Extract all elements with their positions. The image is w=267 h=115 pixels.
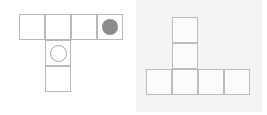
right-figure-panel: [136, 0, 262, 112]
cell-r2c2[interactable]: [198, 69, 224, 95]
cell-r2c3[interactable]: [224, 69, 250, 95]
cell-r2c1[interactable]: [172, 69, 198, 95]
outline-circle-token[interactable]: [50, 45, 67, 62]
cell-r0c2[interactable]: [71, 14, 97, 40]
left-figure-panel: [0, 0, 133, 115]
cell-r2c1[interactable]: [45, 66, 71, 92]
cell-r1c1[interactable]: [172, 43, 198, 69]
cell-r0c1[interactable]: [172, 17, 198, 43]
cell-r0c0[interactable]: [19, 14, 45, 40]
figure-canvas: [0, 0, 267, 115]
filled-disc-token[interactable]: [102, 19, 118, 35]
cell-r2c0[interactable]: [146, 69, 172, 95]
cell-r0c1[interactable]: [45, 14, 71, 40]
